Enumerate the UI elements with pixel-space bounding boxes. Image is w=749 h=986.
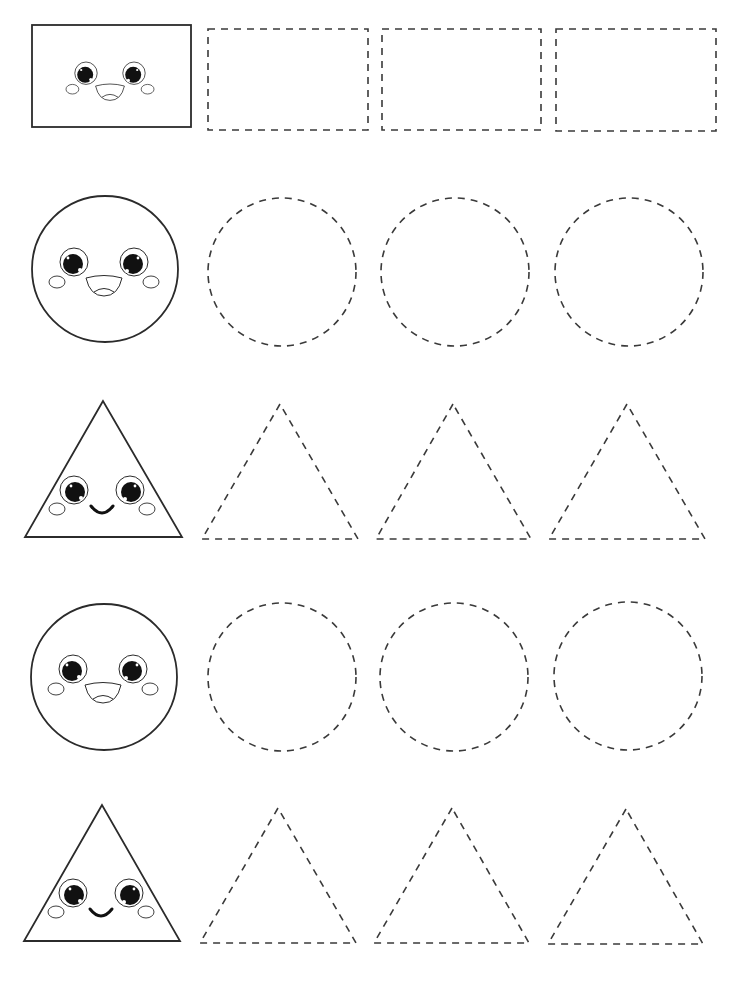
example-circle-face — [32, 196, 178, 342]
example-triangle-face — [24, 805, 180, 941]
example-rectangle-face — [32, 25, 191, 127]
trace-triangle-3[interactable] — [549, 404, 705, 539]
trace-circle-6[interactable] — [554, 602, 702, 750]
trace-rectangle-3[interactable] — [556, 29, 716, 131]
row-circle-2 — [31, 602, 702, 751]
trace-circle-5[interactable] — [380, 603, 528, 751]
trace-triangle-5[interactable] — [374, 808, 529, 943]
row-triangle-2 — [24, 805, 703, 944]
trace-rectangle-2[interactable] — [382, 29, 541, 130]
trace-triangle-2[interactable] — [376, 404, 531, 539]
shape-tracing-worksheet — [0, 0, 749, 986]
trace-triangle-4[interactable] — [200, 808, 356, 943]
trace-triangle-1[interactable] — [202, 404, 358, 539]
row-rectangle — [32, 25, 716, 131]
trace-circle-3[interactable] — [555, 198, 703, 346]
example-circle-face — [31, 604, 177, 750]
trace-triangle-6[interactable] — [548, 809, 703, 944]
trace-rectangle-1[interactable] — [208, 29, 368, 130]
row-triangle-1 — [25, 401, 705, 539]
example-triangle-face — [25, 401, 182, 537]
row-circle-1 — [32, 196, 703, 346]
trace-circle-2[interactable] — [381, 198, 529, 346]
trace-circle-1[interactable] — [208, 198, 356, 346]
trace-circle-4[interactable] — [208, 603, 356, 751]
